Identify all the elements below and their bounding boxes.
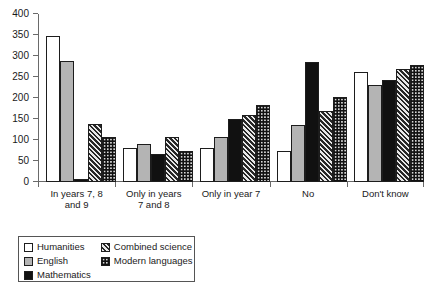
bar: [277, 151, 291, 183]
bar-group: [354, 14, 424, 182]
bar-chart: 050100150200250300350400 In years 7, 8 a…: [0, 0, 436, 292]
x-axis-tick: [423, 182, 424, 187]
bar: [242, 115, 256, 182]
y-axis-tick-label: 50: [18, 156, 29, 166]
y-axis-tick-label: 100: [12, 135, 29, 145]
bar: [368, 85, 382, 182]
y-axis-tick-label: 150: [12, 114, 29, 124]
y-axis-tick: 350: [33, 34, 38, 35]
x-axis-category-label: No: [270, 188, 347, 199]
swatch-modern-languages-icon: [101, 257, 110, 266]
y-axis-tick: 50: [33, 160, 38, 161]
bar-group: [277, 14, 347, 182]
bar: [319, 111, 333, 182]
x-axis-tick: [192, 182, 193, 187]
bar: [102, 137, 116, 182]
legend-item-label: Combined science: [114, 242, 192, 252]
bar: [60, 61, 74, 182]
x-axis-category-label: Only in years 7 and 8: [115, 188, 192, 210]
y-axis-tick-label: 0: [23, 177, 29, 187]
bar-group: [46, 14, 116, 182]
bar: [228, 119, 242, 182]
y-axis-line: [38, 14, 39, 182]
x-axis-tick: [270, 182, 271, 187]
bar: [333, 97, 347, 182]
legend-item-label: Mathematics: [37, 270, 91, 280]
y-axis-tick: 200: [33, 97, 38, 98]
x-axis-category-label: Only in year 7: [192, 188, 269, 199]
legend-item: Combined science: [101, 241, 193, 253]
y-axis-tick-label: 200: [12, 93, 29, 103]
y-axis-tick: 300: [33, 55, 38, 56]
y-axis-tick: 400: [33, 13, 38, 14]
bar: [137, 144, 151, 182]
bar: [46, 36, 60, 182]
y-axis-tick: 250: [33, 76, 38, 77]
swatch-humanities-icon: [24, 243, 33, 252]
bar: [305, 62, 319, 182]
legend-item: Humanities: [24, 241, 91, 253]
bar: [200, 148, 214, 182]
bar: [151, 154, 165, 182]
x-axis-category-label: Don't know: [347, 188, 424, 199]
bar-group: [200, 14, 270, 182]
bar: [410, 65, 424, 182]
legend-item-label: Modern languages: [114, 256, 193, 266]
legend-item-label: Humanities: [37, 242, 85, 252]
swatch-mathematics-icon: [24, 271, 33, 280]
legend: HumanitiesEnglishMathematics Combined sc…: [18, 236, 195, 282]
bar: [396, 69, 410, 182]
bar: [165, 137, 179, 182]
plot-area: 050100150200250300350400: [38, 14, 424, 182]
legend-item: Mathematics: [24, 269, 91, 281]
y-axis-tick-label: 300: [12, 51, 29, 61]
bar: [256, 105, 270, 182]
bar: [354, 72, 368, 182]
legend-item: English: [24, 255, 91, 267]
y-axis-tick-label: 250: [12, 72, 29, 82]
legend-item-label: English: [37, 256, 68, 266]
bar: [74, 179, 88, 182]
bar: [88, 124, 102, 182]
swatch-english-icon: [24, 257, 33, 266]
x-axis-tick: [115, 182, 116, 187]
y-axis-tick: 150: [33, 118, 38, 119]
x-axis-tick: [347, 182, 348, 187]
y-axis-tick-label: 400: [12, 9, 29, 19]
bar: [291, 125, 305, 182]
legend-item: Modern languages: [101, 255, 193, 267]
x-axis-category-label: In years 7, 8 and 9: [38, 188, 115, 210]
bar: [123, 148, 137, 182]
bar-group: [123, 14, 193, 182]
x-axis-tick: [38, 182, 39, 187]
legend-column-right: Combined scienceModern languages: [101, 241, 193, 281]
y-axis-tick-label: 350: [12, 30, 29, 40]
y-axis-tick: 100: [33, 139, 38, 140]
bar: [382, 80, 396, 182]
bar: [214, 137, 228, 182]
legend-column-left: HumanitiesEnglishMathematics: [24, 241, 91, 281]
bar: [179, 151, 193, 182]
swatch-combined-science-icon: [101, 243, 110, 252]
